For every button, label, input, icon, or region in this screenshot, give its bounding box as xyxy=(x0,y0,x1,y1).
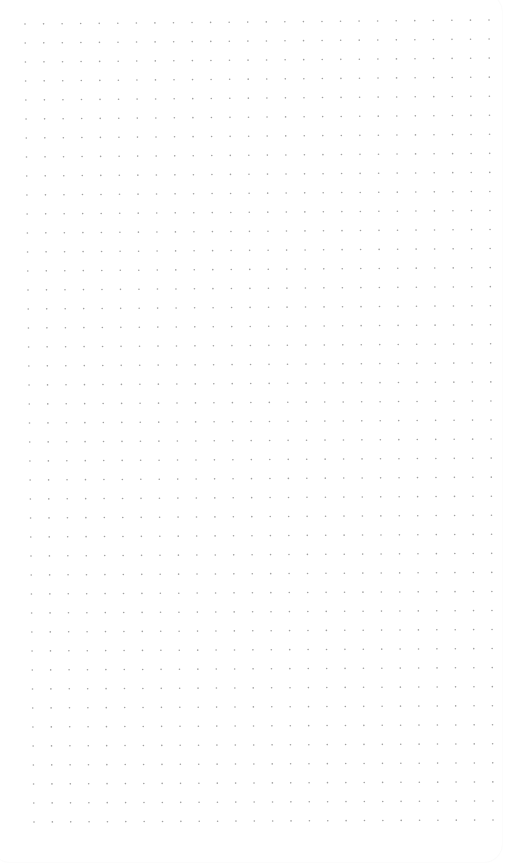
grid-dot xyxy=(46,289,48,291)
grid-dot xyxy=(119,193,121,195)
grid-dot xyxy=(67,517,69,519)
grid-dot xyxy=(105,650,107,652)
grid-dot xyxy=(471,362,473,364)
grid-dot xyxy=(381,705,383,707)
grid-dot xyxy=(32,745,34,747)
grid-dot xyxy=(303,78,305,80)
grid-dot xyxy=(50,707,52,709)
grid-dot xyxy=(104,612,106,614)
grid-dot xyxy=(251,497,253,499)
grid-dot xyxy=(250,440,252,442)
grid-dot xyxy=(64,270,66,272)
grid-dot xyxy=(284,21,286,23)
grid-dot xyxy=(140,440,142,442)
grid-dot xyxy=(46,308,48,310)
grid-dot xyxy=(178,554,180,556)
grid-dot xyxy=(159,516,161,518)
grid-dot xyxy=(24,42,26,44)
grid-dot xyxy=(285,173,287,175)
grid-dot xyxy=(287,382,289,384)
grid-dot xyxy=(104,517,106,519)
grid-dot xyxy=(399,553,401,555)
grid-dot xyxy=(85,536,87,538)
grid-dot xyxy=(326,725,328,727)
grid-dot xyxy=(229,117,231,119)
grid-dot xyxy=(198,725,200,727)
grid-dot xyxy=(378,134,380,136)
grid-dot xyxy=(28,384,30,386)
grid-dot xyxy=(103,498,105,500)
grid-dot xyxy=(88,802,90,804)
grid-dot xyxy=(84,441,86,443)
grid-dot xyxy=(178,649,180,651)
grid-dot xyxy=(491,572,493,574)
grid-dot xyxy=(380,477,382,479)
grid-dot xyxy=(270,554,272,556)
grid-dot xyxy=(65,327,67,329)
grid-dot xyxy=(395,20,397,22)
grid-dot xyxy=(66,498,68,500)
grid-dot xyxy=(342,382,344,384)
grid-dot xyxy=(142,631,144,633)
grid-dot xyxy=(489,267,491,269)
grid-dot xyxy=(120,289,122,291)
grid-dot xyxy=(179,745,181,747)
grid-dot xyxy=(359,192,361,194)
grid-dot xyxy=(269,497,271,499)
grid-dot xyxy=(251,478,253,480)
grid-dot xyxy=(233,535,235,537)
grid-dot xyxy=(286,211,288,213)
grid-dot xyxy=(197,668,199,670)
grid-dot xyxy=(290,725,292,727)
grid-dot xyxy=(433,58,435,60)
grid-dot xyxy=(471,229,473,231)
grid-dot xyxy=(268,326,270,328)
grid-dot xyxy=(197,687,199,689)
grid-dot xyxy=(340,20,342,22)
grid-dot xyxy=(377,77,379,79)
grid-dot xyxy=(380,515,382,517)
grid-dot xyxy=(382,801,384,803)
grid-dot xyxy=(306,516,308,518)
grid-dot xyxy=(290,782,292,784)
grid-dot xyxy=(143,764,145,766)
grid-dot xyxy=(161,707,163,709)
grid-dot xyxy=(289,668,291,670)
grid-dot xyxy=(343,477,345,479)
grid-dot xyxy=(308,801,310,803)
grid-dot xyxy=(361,420,363,422)
grid-dot xyxy=(249,307,251,309)
grid-dot xyxy=(141,574,143,576)
grid-dot xyxy=(98,23,100,25)
grid-dot xyxy=(288,497,290,499)
grid-dot xyxy=(119,270,121,272)
grid-dot xyxy=(380,439,382,441)
grid-dot xyxy=(343,515,345,517)
grid-dot xyxy=(99,99,101,101)
grid-dot xyxy=(173,22,175,24)
grid-dot xyxy=(435,496,437,498)
grid-dot xyxy=(417,572,419,574)
grid-dot xyxy=(86,593,88,595)
grid-dot xyxy=(141,555,143,557)
grid-dot xyxy=(215,649,217,651)
grid-dot xyxy=(418,667,420,669)
grid-dot xyxy=(454,610,456,612)
grid-dot xyxy=(286,230,288,232)
grid-dot xyxy=(436,686,438,688)
grid-dot xyxy=(63,213,65,215)
grid-dot xyxy=(155,98,157,100)
grid-dot xyxy=(362,515,364,517)
grid-dot xyxy=(490,305,492,307)
grid-dot xyxy=(454,572,456,574)
grid-dot xyxy=(173,98,175,100)
grid-dot xyxy=(61,23,63,25)
grid-dot xyxy=(124,726,126,728)
grid-dot xyxy=(418,724,420,726)
grid-dot xyxy=(324,401,326,403)
grid-dot xyxy=(398,420,400,422)
grid-dot xyxy=(343,420,345,422)
grid-dot xyxy=(345,801,347,803)
grid-dot xyxy=(48,517,50,519)
grid-dot xyxy=(491,591,493,593)
